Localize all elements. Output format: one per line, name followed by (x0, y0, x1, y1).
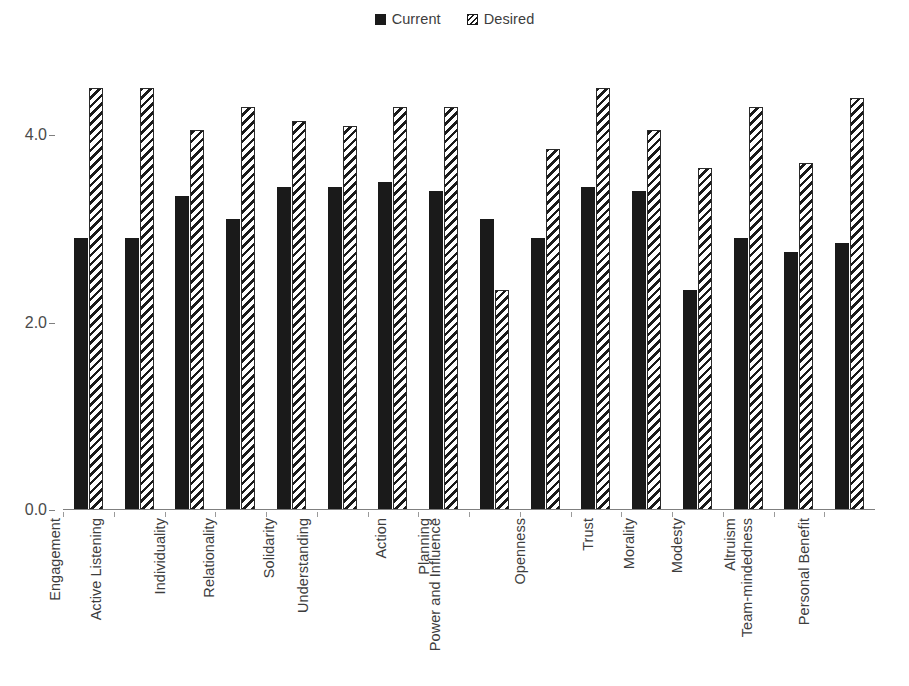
bar-group (418, 60, 469, 510)
legend-swatch-solid-icon (375, 14, 386, 25)
x-axis-label-cell: Modesty (672, 512, 723, 682)
bar-current (734, 238, 748, 510)
bar-group (520, 60, 571, 510)
x-axis-tick-mark (672, 512, 673, 517)
bar-desired (495, 290, 509, 510)
bar-group (317, 60, 368, 510)
bar-desired (393, 107, 407, 510)
bar-group (672, 60, 723, 510)
x-axis-label-cell: Planning (418, 512, 469, 682)
x-axis-label-cell: Morality (621, 512, 672, 682)
bar-group (165, 60, 216, 510)
x-axis-label: Action (373, 518, 389, 559)
bar-desired (140, 88, 154, 510)
bar-group (723, 60, 774, 510)
bar-current (632, 191, 646, 510)
bar-desired (546, 149, 560, 510)
x-axis-tick-mark (368, 512, 369, 517)
y-axis-tick-mark (49, 323, 55, 324)
bar-desired (596, 88, 610, 510)
x-axis-tick-mark (63, 512, 64, 517)
bar-desired (749, 107, 763, 510)
x-axis-label: Modesty (670, 518, 686, 573)
bar-current (784, 252, 798, 510)
bar-current (74, 238, 88, 510)
bar-current (328, 187, 342, 510)
x-axis-tick-mark (723, 512, 724, 517)
bar-group (469, 60, 520, 510)
x-axis-label-cell: Action (368, 512, 419, 682)
bar-desired (444, 107, 458, 510)
x-axis-tick-mark (266, 512, 267, 517)
bar-current (226, 219, 240, 510)
bar-current (683, 290, 697, 510)
bar-desired (89, 88, 103, 510)
y-axis-tick-mark (49, 135, 55, 136)
x-axis-label: Relationality (201, 518, 217, 598)
bar-group (215, 60, 266, 510)
bar-desired (190, 130, 204, 510)
x-axis-label: Solidarity (261, 518, 277, 578)
x-axis-tick-mark (571, 512, 572, 517)
x-axis-label: Understanding (295, 518, 311, 613)
x-axis-label-cell: Openness (520, 512, 571, 682)
x-axis-line (63, 509, 875, 510)
x-axis-label: Team-mindedness (739, 518, 755, 637)
bar-current (531, 238, 545, 510)
x-axis-label-cell: Personal Benefit (824, 512, 875, 682)
x-axis-label: Power and Influence (428, 518, 444, 651)
x-axis-label: Altruism (722, 518, 738, 571)
bar-current (125, 238, 139, 510)
bar-desired (647, 130, 661, 510)
bar-groups (63, 60, 875, 510)
bar-current (378, 182, 392, 510)
bar-group (266, 60, 317, 510)
bar-group (774, 60, 825, 510)
x-axis-tick-mark (469, 512, 470, 517)
bar-group (368, 60, 419, 510)
bar-current (835, 243, 849, 510)
bar-chart: Current Desired 0.02.04.0 EngagementActi… (0, 0, 909, 686)
y-axis-tick-mark (49, 510, 55, 511)
x-axis-label: Personal Benefit (796, 518, 812, 625)
bar-group (571, 60, 622, 510)
bar-desired (343, 126, 357, 510)
bar-current (581, 187, 595, 510)
bar-desired (799, 163, 813, 510)
bar-group (63, 60, 114, 510)
plot-area (63, 60, 875, 510)
legend-label-current: Current (392, 11, 441, 27)
x-axis-label: Active Listening (88, 518, 104, 620)
bar-current (277, 187, 291, 510)
legend-entry-current: Current (375, 11, 441, 27)
legend-label-desired: Desired (484, 11, 535, 27)
x-axis-label-cell: Trust (571, 512, 622, 682)
x-axis-tick-mark (317, 512, 318, 517)
x-axis-labels: EngagementActive ListeningIndividualityR… (63, 512, 875, 682)
bar-group (114, 60, 165, 510)
x-axis-tick-mark (114, 512, 115, 517)
x-axis-label: Individuality (152, 518, 168, 594)
x-axis-tick-mark (165, 512, 166, 517)
bar-desired (292, 121, 306, 510)
x-axis-tick-mark (774, 512, 775, 517)
bar-desired (850, 98, 864, 511)
y-axis-tick-label: 0.0 (25, 501, 47, 519)
x-axis-tick-mark (418, 512, 419, 517)
y-axis-tick-label: 4.0 (25, 126, 47, 144)
bar-current (480, 219, 494, 510)
y-axis-tick-label: 2.0 (25, 314, 47, 332)
x-axis-label-cell: Understanding (317, 512, 368, 682)
legend-swatch-hatch-icon (467, 14, 478, 25)
x-axis-tick-mark (520, 512, 521, 517)
bar-desired (241, 107, 255, 510)
legend-entry-desired: Desired (467, 11, 535, 27)
x-axis-label: Openness (512, 518, 528, 585)
x-axis-tick-mark (215, 512, 216, 517)
x-axis-tick-mark (621, 512, 622, 517)
x-axis-label: Trust (580, 518, 596, 551)
x-axis-label: Engagement (47, 518, 63, 601)
bar-group (824, 60, 875, 510)
bar-current (429, 191, 443, 510)
x-axis-tick-mark (824, 512, 825, 517)
